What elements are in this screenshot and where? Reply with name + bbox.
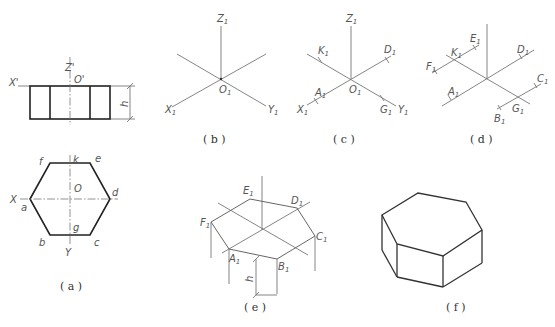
panel-e-isometric-top-face: h E1 D1 F1 C1 A1 B1 <box>200 176 327 298</box>
label-o-prime: O' <box>74 74 85 85</box>
panel-f-hexagonal-prism <box>382 193 482 287</box>
label-f1: F1 <box>426 61 436 74</box>
panel-b-isometric-axes: Z1 O1 X1 Y1 <box>164 13 279 117</box>
label-a1: A1 <box>314 87 326 100</box>
label-b1: B1 <box>278 261 289 274</box>
caption-a: ( a ) <box>60 280 82 293</box>
label-g1: G1 <box>380 104 392 117</box>
caption-f: ( f ) <box>446 301 466 314</box>
label-d1: D1 <box>384 44 396 57</box>
label-c: c <box>94 237 100 248</box>
panel-c-isometric-points: Z1 K1 D1 O1 A1 G1 X1 Y1 <box>296 13 409 117</box>
label-o: O <box>74 183 82 194</box>
caption-e: ( e ) <box>244 301 266 314</box>
label-x-prime: X' <box>8 77 19 88</box>
label-a1: A1 <box>228 253 240 266</box>
label-a: a <box>21 202 27 213</box>
label-o1: O1 <box>219 84 231 97</box>
label-y1: Y1 <box>398 104 409 117</box>
label-b1: B1 <box>494 113 505 126</box>
label-c1: C1 <box>316 231 327 244</box>
label-g: g <box>73 222 79 233</box>
label-z1: Z1 <box>216 13 228 26</box>
label-h-iso: h <box>244 276 255 282</box>
label-e1: E1 <box>470 33 481 46</box>
label-d1: D1 <box>291 195 303 208</box>
label-g1: G1 <box>512 103 524 116</box>
panel-d-isometric-construction: E1 K1 F1 D1 A1 C1 G1 B1 <box>426 24 548 126</box>
label-h-front: h <box>119 101 130 107</box>
label-e1: E1 <box>243 185 254 198</box>
label-c1: C1 <box>537 73 548 86</box>
label-f: f <box>39 156 44 167</box>
label-z-prime: Z' <box>64 62 75 73</box>
label-d: d <box>112 187 119 198</box>
label-d1: D1 <box>517 44 529 57</box>
figure-hexagonal-prism-isometric: X' Z' O' h X a f k e O d g b c Y ( a ) Z… <box>0 0 555 327</box>
panel-a-front-view: X' Z' O' h <box>8 57 135 125</box>
label-y: Y <box>65 247 72 258</box>
caption-d: ( d ) <box>470 133 493 146</box>
label-y1: Y1 <box>268 104 279 117</box>
label-f1: F1 <box>200 217 210 230</box>
label-z1: Z1 <box>345 13 357 26</box>
caption-c: ( c ) <box>333 133 355 146</box>
label-e: e <box>95 153 101 164</box>
caption-b: ( b ) <box>203 133 226 146</box>
label-o1: O1 <box>349 84 361 97</box>
label-x: X <box>9 194 18 205</box>
label-x1: X1 <box>296 104 308 117</box>
panel-a-top-view: X a f k e O d g b c Y <box>9 153 119 258</box>
label-b: b <box>39 237 45 248</box>
label-k1: K1 <box>318 45 329 58</box>
